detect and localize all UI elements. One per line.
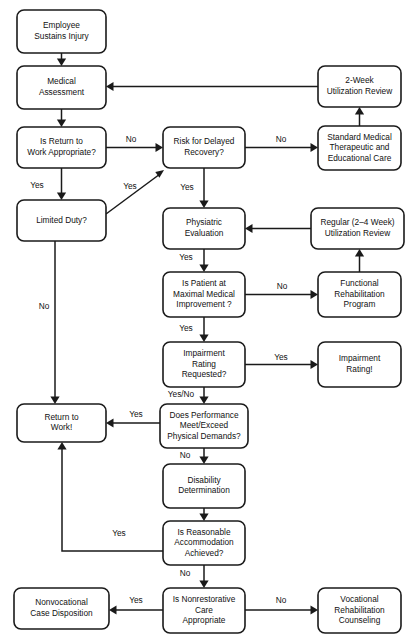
node-label-line: Achieved? (185, 548, 224, 558)
arrowhead-down (199, 581, 208, 589)
node-label-line: Care (195, 605, 213, 615)
node-label-line: Vocational (340, 594, 378, 604)
node-label-line: Risk for Delayed (174, 136, 235, 146)
node-label-line: Assessment (39, 87, 85, 97)
node-is-reasonable-accommodation-achieved[interactable]: Is ReasonableAccommodationAchieved? (163, 521, 245, 565)
node-label-line: Counseling (339, 615, 381, 625)
arrowhead-down (199, 397, 208, 405)
node-label-line: Case Disposition (30, 608, 93, 618)
node-label-line: Rehabilitation (334, 289, 385, 299)
edge-nonrestorative-yes-to-nonvocational: Yes (109, 595, 163, 614)
edge-nonrestorative-no-to-vocational: No (245, 595, 318, 614)
node-disability-determination[interactable]: DisabilityDetermination (163, 464, 245, 508)
edge-impairment-yes-to-rating: Yes (245, 352, 318, 369)
node-label-line: Medical (47, 76, 76, 86)
arrowhead-right (156, 143, 164, 152)
edge-label-risk-no-to-standard-care: No (276, 134, 287, 144)
node-label-line: Appropriate (183, 615, 226, 625)
edge-mmi-yes-to-impairment-question: Yes (179, 317, 208, 342)
arrowhead-left (109, 605, 117, 614)
arrowhead-down (57, 193, 66, 201)
arrowhead-down (199, 265, 208, 273)
node-label-line: Rating (192, 359, 216, 369)
edge-accommodation-no-to-nonrestorative: No (180, 565, 209, 588)
edge-accommodation-yes-to-return-to-work: Yes (57, 442, 163, 551)
arrowhead-down (199, 457, 208, 465)
node-impairment-rating-result[interactable]: ImpairmentRating! (318, 342, 401, 387)
edge-label-return-question-yes-to-limited-duty: Yes (30, 180, 44, 190)
node-is-nonrestorative-care-appropriate[interactable]: Is NonrestorativeCareAppropriate (163, 588, 245, 633)
edge-label-mmi-yes-to-impairment-question: Yes (179, 323, 193, 333)
node-risk-for-delayed-recovery[interactable]: Risk for DelayedRecovery? (163, 127, 245, 168)
edge-impairment-yesno-to-performance: Yes/No (168, 387, 209, 404)
arrowhead-down (57, 120, 66, 128)
arrowhead-down (199, 335, 208, 343)
edge-label-limited-duty-yes-to-risk: Yes (123, 181, 137, 191)
edge-label-risk-yes-to-physiatric: Yes (180, 182, 194, 192)
node-label-line: Educational Care (328, 153, 392, 163)
edge-label-nonrestorative-no-to-vocational: No (276, 595, 287, 605)
edge-injury-to-assessment (57, 53, 66, 66)
edge-performance-no-to-disability: No (180, 448, 209, 464)
flowchart-svg: NoYesYesNoNoYesYesNoYesYesYes/NoYesNoYes… (0, 0, 412, 643)
arrowhead-right (311, 143, 319, 152)
edge-label-accommodation-yes-to-return-to-work: Yes (112, 528, 126, 538)
node-label-line: Nonvocational (35, 597, 88, 607)
arrowhead-up (355, 249, 364, 257)
edge-limited-duty-yes-to-risk: Yes (106, 170, 164, 214)
edge-label-impairment-yesno-to-performance: Yes/No (168, 389, 195, 399)
edge-label-nonrestorative-yes-to-nonvocational: Yes (129, 595, 143, 605)
node-label-line: Therapeutic and (330, 142, 390, 152)
arrowhead-up (355, 107, 364, 115)
node-return-to-work[interactable]: Return toWork! (17, 404, 106, 442)
arrowhead-down (50, 397, 59, 405)
edge-label-physiatric-yes-to-mmi: Yes (179, 252, 193, 262)
node-does-performance-meet-exceed[interactable]: Does PerformanceMeet/ExceedPhysical Dema… (160, 404, 248, 448)
node-label-line: Evaluation (185, 228, 224, 238)
node-label-line: Accommodation (174, 537, 234, 547)
node-limited-duty[interactable]: Limited Duty? (17, 200, 106, 241)
node-employee-sustains-injury[interactable]: EmployeeSustains Injury (17, 10, 106, 53)
node-is-patient-at-mmi[interactable]: Is Patient atMaximal MedicalImprovement … (163, 272, 245, 317)
edge-line (106, 174, 160, 214)
nodes-layer: EmployeeSustains InjuryMedicalAssessment… (14, 10, 404, 633)
node-physiatric-evaluation[interactable]: PhysiatricEvaluation (163, 208, 245, 249)
edge-label-limited-duty-no-to-return-to-work: No (39, 301, 50, 311)
node-label-line: Recovery? (184, 147, 224, 157)
edge-physiatric-yes-to-mmi: Yes (179, 249, 208, 272)
edge-two-week-review-to-assessment (106, 82, 318, 91)
node-label-line: Utilization Review (325, 228, 391, 238)
node-nonvocational-case-disposition[interactable]: NonvocationalCase Disposition (14, 588, 109, 629)
arrowhead-down (199, 201, 208, 209)
node-label-line: Rehabilitation (334, 605, 385, 615)
node-regular-utilization-review[interactable]: Regular (2–4 Week)Utilization Review (311, 208, 404, 249)
node-label-line: Disability (187, 475, 221, 485)
node-label-line: Rating! (346, 364, 372, 374)
node-label-line: Sustains Injury (34, 31, 89, 41)
arrowhead-up (57, 442, 66, 450)
node-label-line: Requested? (182, 369, 227, 379)
edge-mmi-no-to-functional-rehab: No (245, 281, 318, 299)
edge-label-performance-no-to-disability: No (180, 450, 191, 460)
node-label-line: Work Appropriate? (27, 147, 96, 157)
node-label-line: Determination (178, 485, 230, 495)
arrowhead-left (106, 82, 114, 91)
edge-label-impairment-yes-to-rating: Yes (274, 352, 288, 362)
arrowhead-down (199, 514, 208, 522)
node-medical-assessment[interactable]: MedicalAssessment (17, 66, 106, 109)
node-label-line: Physiatric (186, 217, 222, 227)
arrowhead-right (311, 605, 319, 614)
node-impairment-rating-requested[interactable]: ImpairmentRatingRequested? (163, 342, 245, 387)
edge-label-accommodation-no-to-nonrestorative: No (180, 568, 191, 578)
node-label-line: Impairment (339, 353, 381, 363)
node-label-line: Is Patient at (182, 278, 227, 288)
node-label-line: Meet/Exceed (180, 420, 229, 430)
node-standard-medical-care[interactable]: Standard MedicalTherapeutic andEducation… (318, 126, 401, 170)
node-two-week-utilization-review[interactable]: 2-WeekUtilization Review (318, 66, 401, 107)
node-label-line: Program (344, 299, 376, 309)
node-vocational-rehabilitation-counseling[interactable]: VocationalRehabilitationCounseling (318, 588, 401, 633)
edge-assessment-to-return-question (57, 109, 66, 127)
node-label-line: 2-Week (345, 75, 374, 85)
node-is-return-to-work-appropriate[interactable]: Is Return toWork Appropriate? (17, 127, 106, 168)
node-functional-rehabilitation-program[interactable]: FunctionalRehabilitationProgram (318, 272, 401, 317)
